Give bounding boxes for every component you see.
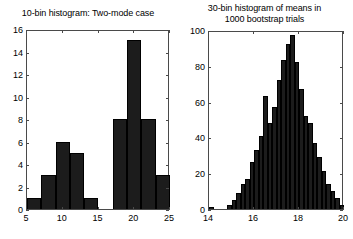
y-tick-mark-right xyxy=(340,67,343,68)
x-axis-tick-label: 18 xyxy=(293,214,303,223)
histogram-bar xyxy=(113,119,127,209)
x-tick-mark-top xyxy=(133,30,134,33)
x-tick-mark-top xyxy=(343,31,344,34)
y-axis-tick-label: 0 xyxy=(181,206,205,215)
x-axis-tick-label: 14 xyxy=(203,214,213,223)
chart-panel-left: 10-bin histogram: Two-mode case 02468101… xyxy=(0,0,176,239)
y-tick-mark-right xyxy=(340,103,343,104)
y-tick-mark-right xyxy=(166,188,169,189)
y-axis-tick-label: 4 xyxy=(0,161,23,170)
y-axis-tick-label: 12 xyxy=(0,71,23,80)
y-tick-mark-right xyxy=(166,75,169,76)
x-tick-mark xyxy=(298,207,299,210)
y-tick-mark xyxy=(26,98,29,99)
chart-title-left: 10-bin histogram: Two-mode case xyxy=(0,8,176,19)
y-tick-mark-right xyxy=(166,53,169,54)
y-tick-mark-right xyxy=(340,138,343,139)
x-axis-tick-label: 10 xyxy=(57,214,67,223)
x-axis-tick-label: 15 xyxy=(92,214,102,223)
y-tick-mark xyxy=(26,188,29,189)
histogram-bar xyxy=(27,198,41,209)
y-tick-mark xyxy=(208,103,211,104)
x-tick-mark-top xyxy=(62,30,63,33)
x-tick-mark xyxy=(133,207,134,210)
histogram-bar xyxy=(141,119,155,209)
histogram-bar xyxy=(41,175,55,209)
histogram-bars-left xyxy=(27,31,168,209)
y-axis-tick-label: 2 xyxy=(0,183,23,192)
plot-area-left xyxy=(26,30,169,210)
y-tick-mark-right xyxy=(166,98,169,99)
x-tick-mark xyxy=(208,207,209,210)
x-tick-mark xyxy=(169,207,170,210)
y-tick-mark xyxy=(208,67,211,68)
histogram-bar xyxy=(209,207,214,209)
y-tick-mark xyxy=(26,120,29,121)
y-axis-tick-label: 10 xyxy=(0,93,23,102)
plot-area-right xyxy=(208,31,343,210)
chart-title-right: 30-bin histogram of means in 1000 bootst… xyxy=(176,3,353,24)
y-tick-mark-right xyxy=(166,120,169,121)
y-axis-tick-label: 0 xyxy=(0,206,23,215)
x-tick-mark-top xyxy=(169,30,170,33)
y-axis-tick-label: 6 xyxy=(0,138,23,147)
histogram-bar xyxy=(84,198,98,209)
x-tick-mark xyxy=(253,207,254,210)
y-axis-tick-label: 16 xyxy=(0,26,23,35)
y-axis-tick-label: 60 xyxy=(181,98,205,107)
y-tick-mark-right xyxy=(166,210,169,211)
y-tick-mark xyxy=(26,165,29,166)
y-axis-tick-label: 20 xyxy=(181,170,205,179)
y-tick-mark xyxy=(208,174,211,175)
x-tick-mark-top xyxy=(298,31,299,34)
y-tick-mark-right xyxy=(340,210,343,211)
x-tick-mark-top xyxy=(208,31,209,34)
x-axis-tick-label: 16 xyxy=(248,214,258,223)
x-tick-mark xyxy=(343,207,344,210)
y-axis-tick-label: 100 xyxy=(181,27,205,36)
y-tick-mark xyxy=(26,53,29,54)
y-tick-mark xyxy=(208,138,211,139)
x-tick-mark-top xyxy=(253,31,254,34)
y-axis-tick-label: 40 xyxy=(181,134,205,143)
y-axis-tick-label: 14 xyxy=(0,48,23,57)
x-tick-mark xyxy=(62,207,63,210)
x-tick-mark-top xyxy=(26,30,27,33)
histogram-bar xyxy=(156,175,170,209)
y-tick-mark-right xyxy=(166,143,169,144)
y-tick-mark xyxy=(208,210,211,211)
x-axis-tick-label: 25 xyxy=(164,214,174,223)
histogram-bars-right xyxy=(209,32,342,209)
histogram-bar xyxy=(70,153,84,209)
figure-canvas: 10-bin histogram: Two-mode case 02468101… xyxy=(0,0,353,239)
y-tick-mark xyxy=(26,75,29,76)
histogram-bar xyxy=(56,142,70,210)
y-axis-tick-label: 8 xyxy=(0,116,23,125)
histogram-bar xyxy=(127,40,141,209)
x-axis-tick-label: 5 xyxy=(23,214,28,223)
y-axis-tick-label: 80 xyxy=(181,62,205,71)
x-axis-tick-label: 20 xyxy=(338,214,348,223)
y-tick-mark-right xyxy=(166,165,169,166)
y-tick-mark xyxy=(26,210,29,211)
y-tick-mark-right xyxy=(340,174,343,175)
x-tick-mark-top xyxy=(98,30,99,33)
x-axis-tick-label: 20 xyxy=(128,214,138,223)
y-tick-mark xyxy=(26,143,29,144)
x-tick-mark xyxy=(98,207,99,210)
chart-panel-right: 30-bin histogram of means in 1000 bootst… xyxy=(176,0,353,239)
x-tick-mark xyxy=(26,207,27,210)
